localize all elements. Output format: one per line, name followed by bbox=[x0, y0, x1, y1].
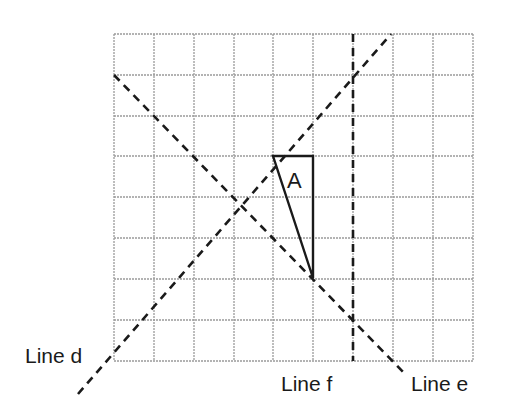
line-f-label: Line f bbox=[281, 373, 332, 394]
shape-label-a: A bbox=[287, 170, 302, 192]
line-e-label: Line e bbox=[411, 373, 468, 394]
grid bbox=[114, 34, 473, 361]
line-e bbox=[114, 75, 406, 375]
line-d-label: Line d bbox=[25, 345, 82, 366]
